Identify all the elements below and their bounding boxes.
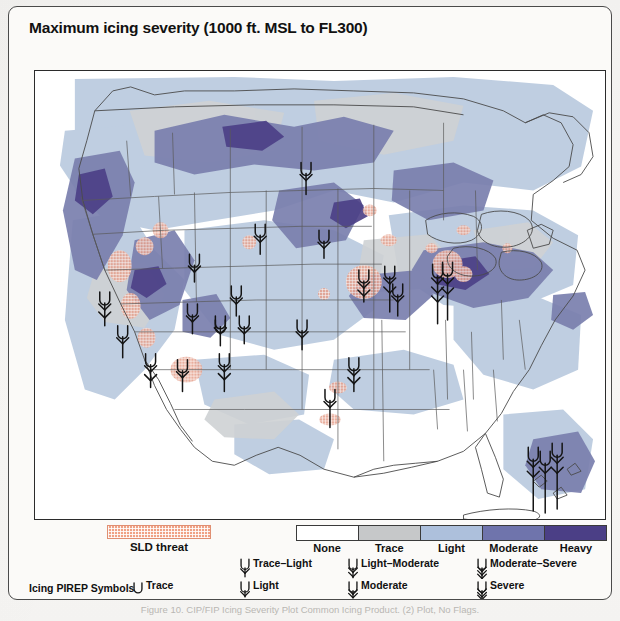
pirep-legend-severe: Severe xyxy=(475,579,524,599)
pirep-icon-trace-light xyxy=(238,557,252,579)
figure-panel: Maximum icing severity (1000 ft. MSL to … xyxy=(8,6,612,600)
page-title: Maximum icing severity (1000 ft. MSL to … xyxy=(29,19,368,37)
pirep-legend-trace-light: Trace–Light xyxy=(238,557,312,579)
severity-swatch-trace xyxy=(359,526,421,540)
pirep-legend-heading: Icing PIREP Symbols xyxy=(29,582,134,594)
pirep-label-moderate: Moderate xyxy=(361,579,408,590)
severity-swatch-light xyxy=(421,526,483,540)
severity-label-trace: Trace xyxy=(358,542,420,554)
sld-threat-legend: SLD threat xyxy=(91,525,227,553)
severity-label-heavy: Heavy xyxy=(545,542,607,554)
pirep-legend: Icing PIREP Symbols Trace–Light xyxy=(9,557,613,601)
severity-label-none: None xyxy=(296,542,358,554)
pirep-legend-light-moderate: Light–Moderate xyxy=(346,557,439,579)
severity-colorbar: None Trace Light Moderate Heavy xyxy=(296,525,607,554)
pirep-label-light: Light xyxy=(253,579,279,590)
pirep-legend-light: Light xyxy=(238,579,279,599)
pirep-icon-trace xyxy=(131,579,145,599)
pirep-label-severe: Severe xyxy=(490,579,524,590)
sld-threat-swatch xyxy=(107,525,211,539)
pirep-icon-light-moderate xyxy=(346,557,360,579)
pirep-legend-moderate-severe: Moderate–Severe xyxy=(475,557,577,579)
severity-label-light: Light xyxy=(420,542,482,554)
severity-colorbar-labels: None Trace Light Moderate Heavy xyxy=(296,542,607,554)
severity-swatch-heavy xyxy=(545,526,606,540)
pirep-label-trace: Trace xyxy=(146,579,173,590)
figure-caption: Figure 10. CIP/FIP Icing Severity Plot C… xyxy=(0,604,620,615)
severity-label-moderate: Moderate xyxy=(483,542,545,554)
map-canvas xyxy=(35,71,605,519)
pirep-icon-moderate-severe xyxy=(475,557,489,579)
severity-swatch-none xyxy=(297,526,359,540)
pirep-icon-moderate xyxy=(346,579,360,599)
pirep-legend-moderate: Moderate xyxy=(346,579,408,599)
severity-colorbar-swatches xyxy=(296,525,607,541)
pirep-icon-light xyxy=(238,579,252,599)
sld-threat-label: SLD threat xyxy=(91,541,227,553)
severity-swatch-moderate xyxy=(483,526,545,540)
pirep-legend-trace: Trace xyxy=(131,579,173,599)
pirep-label-trace-light: Trace–Light xyxy=(253,557,312,568)
icing-severity-map[interactable] xyxy=(34,70,606,520)
legend: SLD threat None Trace Light Moderate Hea… xyxy=(9,520,613,600)
pirep-label-light-moderate: Light–Moderate xyxy=(361,557,439,568)
pirep-label-moderate-severe: Moderate–Severe xyxy=(490,557,577,568)
pirep-icon-severe xyxy=(475,579,489,599)
